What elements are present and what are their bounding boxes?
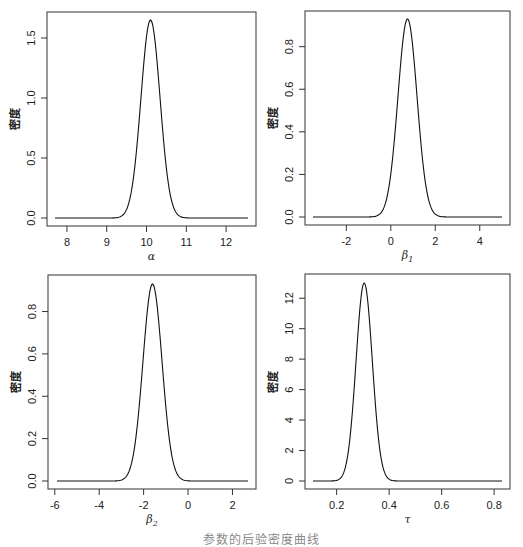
- x-tick-label: -6: [50, 499, 60, 511]
- density-curve: [55, 20, 248, 218]
- y-tick-label: 0.8: [283, 39, 295, 54]
- x-tick-label: 0.2: [329, 499, 344, 511]
- plot-frame: [305, 11, 510, 225]
- x-tick-label: 0: [185, 499, 191, 511]
- x-tick-label: -2: [341, 235, 351, 247]
- x-tick-label: 0.6: [434, 499, 449, 511]
- x-axis-label: β2: [145, 513, 157, 528]
- y-tick-label: 0.2: [26, 431, 38, 446]
- y-tick-label: 0.6: [26, 346, 38, 361]
- figure-caption: 参数的后验密度曲线: [0, 530, 523, 546]
- y-tick-label: 8: [283, 356, 295, 362]
- y-tick-label: 2: [283, 447, 295, 453]
- plot-frame: [48, 275, 256, 489]
- y-tick-label: 1.0: [25, 90, 37, 105]
- density-curve: [313, 19, 502, 217]
- x-axis-label: τ: [404, 513, 411, 526]
- plot-canvas: 891011120.00.51.01.5密度α -20240.00.20.40.…: [0, 0, 523, 530]
- density-plot-beta2: -6-4-2020.00.20.40.60.8密度β2: [9, 275, 256, 528]
- x-tick-label: 12: [220, 236, 232, 248]
- density-plot-tau: 0.20.40.60.8024681012密度τ: [266, 274, 510, 526]
- x-tick-label: -2: [139, 499, 149, 511]
- y-tick-label: 0.2: [283, 167, 295, 182]
- y-tick-label: 0.4: [26, 389, 38, 404]
- x-tick-label: 10: [140, 236, 152, 248]
- y-tick-label: 0.8: [26, 304, 38, 319]
- y-tick-label: 0.0: [25, 210, 37, 225]
- plot-frame: [305, 274, 510, 489]
- x-tick-label: 11: [181, 236, 192, 248]
- y-axis-label: 密度: [8, 107, 21, 130]
- y-tick-label: 1.5: [25, 30, 37, 45]
- y-axis-label: 密度: [9, 370, 22, 393]
- x-tick-label: 0.8: [486, 499, 501, 511]
- x-tick-label: 0: [388, 235, 394, 247]
- y-tick-label: 6: [283, 387, 295, 393]
- density-curve: [57, 284, 248, 481]
- x-axis-label: α: [148, 250, 156, 263]
- x-tick-label: 0.4: [381, 499, 396, 511]
- x-tick-label: 4: [477, 235, 483, 247]
- density-curve: [313, 283, 502, 481]
- y-axis-label: 密度: [266, 106, 279, 129]
- density-plot-alpha: 891011120.00.51.01.5密度α: [8, 12, 256, 263]
- x-tick-label: 8: [64, 236, 70, 248]
- x-tick-label: 2: [229, 499, 235, 511]
- x-tick-label: 2: [432, 235, 438, 247]
- density-plot-beta1: -20240.00.20.40.60.8密度β1: [266, 11, 510, 264]
- y-tick-label: 0.0: [283, 209, 295, 224]
- y-tick-label: 0.4: [283, 124, 295, 139]
- x-tick-label: 9: [104, 236, 110, 248]
- y-tick-label: 0.0: [26, 473, 38, 488]
- y-tick-label: 0.6: [283, 82, 295, 97]
- x-axis-label: β1: [401, 249, 413, 264]
- y-tick-label: 10: [283, 323, 295, 335]
- y-axis-label: 密度: [266, 370, 279, 393]
- y-tick-label: 4: [283, 417, 295, 423]
- y-tick-label: 0: [283, 478, 295, 484]
- x-tick-label: -4: [94, 499, 104, 511]
- y-tick-label: 0.5: [25, 150, 37, 165]
- plot-frame: [47, 12, 256, 226]
- y-tick-label: 12: [283, 292, 295, 304]
